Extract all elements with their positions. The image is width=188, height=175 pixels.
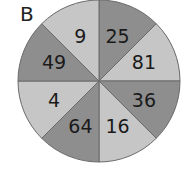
sector-value: 49 bbox=[42, 51, 66, 73]
sector-value: 4 bbox=[48, 89, 60, 111]
sector-value: 25 bbox=[106, 25, 130, 47]
sector-value: 9 bbox=[74, 25, 86, 47]
sector-value: 16 bbox=[106, 115, 130, 137]
sector-value: 81 bbox=[132, 51, 156, 73]
sector-value: 64 bbox=[68, 115, 92, 137]
circle-diagram: 25813616644499 bbox=[0, 0, 188, 175]
sector-value: 36 bbox=[132, 89, 156, 111]
